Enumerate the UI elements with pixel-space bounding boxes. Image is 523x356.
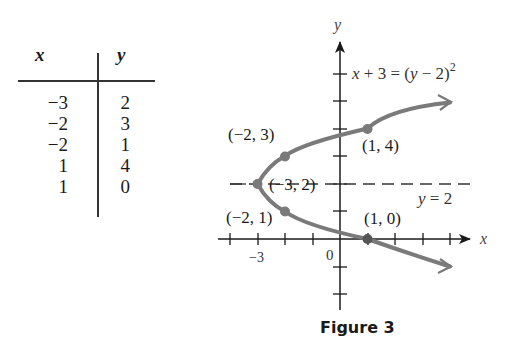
point-label: (1, 4) (362, 136, 399, 155)
parabola-graph: x y y = 2 (−2, 3) (−3, 2) (− (0, 0, 523, 356)
origin-label: 0 (326, 247, 334, 263)
point-vertex (253, 179, 263, 189)
point-label: (−2, 3) (228, 125, 274, 144)
point (363, 234, 373, 244)
figure-caption: Figure 3 (320, 318, 395, 337)
point (363, 124, 373, 134)
x-axis: x (218, 230, 487, 247)
point-label: (1, 0) (364, 209, 401, 228)
y-axis-label: y (332, 16, 342, 34)
y-axis: y (332, 16, 347, 310)
point (280, 152, 290, 162)
symmetry-line-label: y = 2 (416, 189, 452, 208)
x-axis-label: x (479, 230, 487, 247)
equation-label: x + 3 = (y − 2)2 (351, 60, 456, 83)
point-label: (−3, 2) (269, 175, 315, 194)
point-label: (−2, 1) (226, 208, 272, 227)
x-tick-label: −3 (249, 250, 264, 265)
point (280, 207, 290, 217)
